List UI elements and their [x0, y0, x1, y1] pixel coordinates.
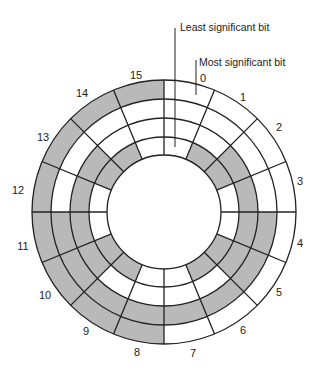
sector-label: 7 — [190, 347, 196, 359]
sector-label: 4 — [297, 237, 303, 249]
sector-label: 11 — [17, 240, 28, 252]
sector-label: 5 — [276, 286, 282, 298]
sector-label: 6 — [240, 324, 246, 336]
sector-label: 13 — [37, 131, 49, 143]
msb-callout: Most significant bit — [196, 56, 285, 95]
sector-label: 8 — [134, 346, 140, 358]
msb-callout-text: Most significant bit — [199, 56, 285, 68]
sector-label: 0 — [200, 72, 206, 84]
lsb-callout: Least significant bit — [175, 21, 269, 147]
shaded-cell — [32, 161, 60, 212]
sector-label: 9 — [83, 325, 89, 337]
sector-label: 10 — [39, 289, 51, 301]
shaded-cell — [113, 80, 164, 108]
sector-label: 15 — [130, 69, 142, 81]
ring-boundary — [107, 155, 221, 269]
sector-label: 3 — [297, 175, 303, 187]
lsb-callout-text: Least significant bit — [180, 21, 269, 33]
disk-sector-dividers — [32, 80, 296, 344]
sector-label: 1 — [240, 91, 246, 103]
sector-label: 12 — [12, 184, 24, 196]
sector-label: 2 — [276, 121, 282, 133]
sector-label: 14 — [76, 87, 88, 99]
shaded-cell — [164, 299, 207, 325]
encoder-disk: 0123456789101112131415 Least significant… — [0, 0, 319, 380]
